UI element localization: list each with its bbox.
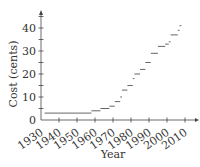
x-axis-label: Year [100,148,126,161]
y-tick-label: 40 [22,22,36,35]
step-series [45,26,182,113]
y-axis-label: Cost (cents) [7,40,20,107]
y-tick-label: 30 [22,45,36,58]
x-axis-arrow-icon [195,118,199,122]
tick-labels: 0102030401930194019501960197019801990200… [15,22,189,153]
y-axis-arrow-icon [39,10,43,15]
y-tick-label: 20 [22,68,36,81]
axes [39,10,200,123]
postage-cost-chart: 0102030401930194019501960197019801990200… [0,0,199,167]
y-tick-label: 10 [22,91,36,104]
y-tick-label: 0 [29,114,36,127]
